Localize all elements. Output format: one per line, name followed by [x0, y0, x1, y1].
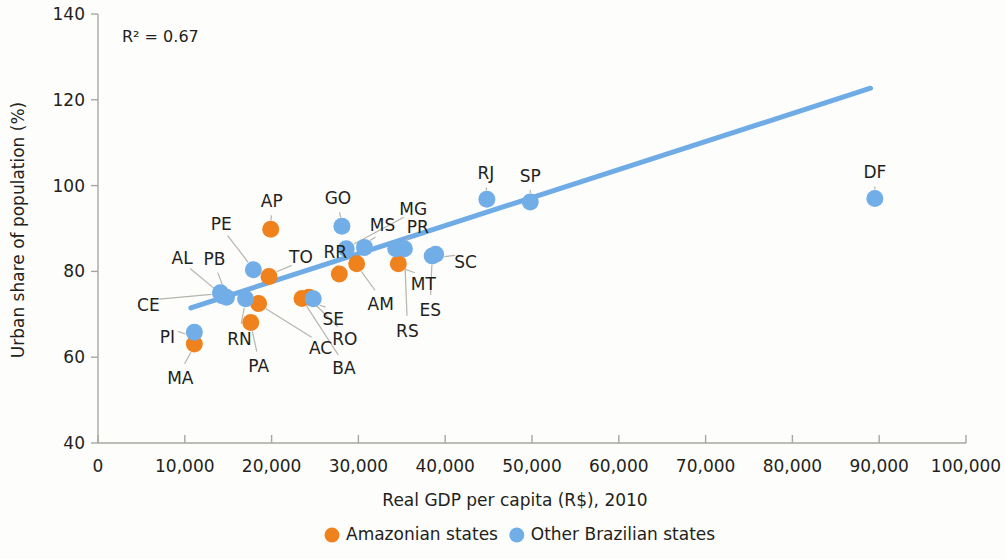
y-tick-label: 60 — [63, 347, 85, 367]
y-tick-label: 40 — [63, 433, 85, 453]
data-point-label-ro: RO — [332, 329, 357, 349]
x-tick-label: 30,000 — [329, 456, 388, 476]
data-point-sc — [427, 246, 444, 263]
legend-swatch-2 — [509, 528, 524, 543]
data-point-label-es: ES — [419, 300, 441, 320]
x-tick-label: 40,000 — [415, 456, 474, 476]
data-point-rr — [331, 265, 348, 282]
y-tick-label: 100 — [53, 176, 85, 196]
data-point-label-pr: PR — [407, 217, 429, 237]
data-point-label-mt: MT — [411, 274, 437, 294]
data-point-label-rj: RJ — [477, 163, 494, 183]
legend-label-1: Amazonian states — [346, 524, 498, 544]
r-squared-annotation: R² = 0.67 — [122, 27, 199, 46]
chart-canvas: 406080100120140 010,00020,00030,00040,00… — [0, 0, 1005, 559]
data-point-label-ms: MS — [370, 215, 395, 235]
data-point-label-mg: MG — [399, 199, 427, 219]
data-point-go — [333, 218, 350, 235]
x-axis-title: Real GDP per capita (R$), 2010 — [382, 490, 647, 510]
x-tick-label: 10,000 — [155, 456, 214, 476]
data-point-label-sc: SC — [454, 252, 477, 272]
data-point-rs — [396, 240, 413, 257]
data-point-label-pe: PE — [211, 214, 232, 234]
data-point-pe — [245, 261, 262, 278]
data-point-label-ba: BA — [332, 358, 356, 378]
data-point-df — [866, 190, 883, 207]
y-tick-label: 120 — [53, 90, 85, 110]
data-point-se — [305, 290, 322, 307]
x-tick-label: 90,000 — [849, 456, 908, 476]
x-tick-label: 20,000 — [242, 456, 301, 476]
data-point-label-df: DF — [863, 162, 886, 182]
data-point-label-am: AM — [368, 294, 394, 314]
data-point-label-to: TO — [288, 247, 313, 267]
data-point-rj — [478, 191, 495, 208]
y-tick-label: 140 — [53, 4, 85, 24]
y-tick-label: 80 — [63, 261, 85, 281]
y-axis-title: Urban share of population (%) — [8, 102, 28, 358]
data-point-rn — [237, 290, 254, 307]
x-tick-label: 50,000 — [502, 456, 561, 476]
data-point-label-al: AL — [172, 248, 194, 268]
data-point-am — [348, 255, 365, 272]
scatter-chart: 406080100120140 010,00020,00030,00040,00… — [0, 0, 1005, 559]
legend-swatch-1 — [325, 528, 340, 543]
legend-label-2: Other Brazilian states — [531, 524, 715, 544]
data-point-label-pi: PI — [160, 327, 175, 347]
x-tick-label: 80,000 — [763, 456, 822, 476]
x-tick-label: 0 — [93, 456, 104, 476]
x-tick-label: 70,000 — [676, 456, 735, 476]
data-point-label-pb: PB — [204, 249, 226, 269]
data-point-label-se: SE — [322, 309, 344, 329]
data-point-sp — [522, 193, 539, 210]
data-point-label-ce: CE — [137, 295, 160, 315]
data-point-pb — [218, 289, 235, 306]
data-point-to — [260, 268, 277, 285]
data-point-ap — [262, 221, 279, 238]
data-point-label-go: GO — [325, 188, 352, 208]
data-point-label-ac: AC — [309, 338, 332, 358]
data-point-ms — [356, 239, 373, 256]
data-point-label-rs: RS — [396, 321, 419, 341]
data-point-label-ma: MA — [167, 368, 194, 388]
x-tick-label: 60,000 — [589, 456, 648, 476]
data-point-label-sp: SP — [520, 166, 541, 186]
x-tick-label: 100,000 — [931, 456, 1001, 476]
data-point-label-ap: AP — [261, 191, 283, 211]
data-point-pi — [186, 324, 203, 341]
data-point-label-pa: PA — [248, 356, 269, 376]
data-point-mt — [390, 255, 407, 272]
data-point-label-rn: RN — [227, 329, 252, 349]
data-point-label-rr: RR — [323, 242, 347, 262]
